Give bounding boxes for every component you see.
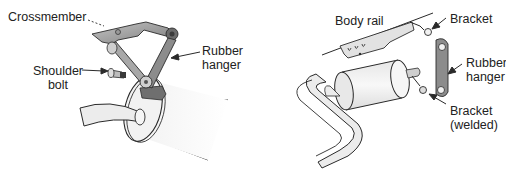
label-rubber-hanger-right-line2: hanger: [466, 70, 506, 84]
shoulder-bolt: [108, 69, 126, 79]
label-shoulder-bolt-line1: Shoulder: [32, 64, 84, 78]
exhaust-hanger-diagram: Crossmember Shoulder bolt Rubber hanger …: [0, 0, 506, 173]
right-muffler-assembly: [297, 59, 427, 168]
left-muffler-assembly: [80, 73, 228, 160]
label-rubber-hanger-left-line2: hanger: [202, 58, 243, 72]
label-rubber-hanger-right: Rubber hanger: [466, 56, 506, 84]
left-crossmember-bracket: [88, 20, 178, 88]
label-bracket-welded-line1: Bracket: [450, 104, 498, 118]
right-rubber-hanger: [436, 39, 448, 97]
label-crossmember: Crossmember: [8, 10, 87, 24]
label-rubber-hanger-right-line1: Rubber: [466, 56, 506, 70]
left-leader-arrows: [82, 52, 200, 74]
label-shoulder-bolt: Shoulder bolt: [32, 64, 84, 92]
label-body-rail: Body rail: [335, 14, 384, 28]
label-rubber-hanger-left: Rubber hanger: [202, 44, 243, 72]
label-bracket: Bracket: [450, 12, 492, 26]
label-bracket-welded-line2: (welded): [450, 118, 498, 132]
label-rubber-hanger-left-line1: Rubber: [202, 44, 243, 58]
label-bracket-welded: Bracket (welded): [450, 104, 498, 132]
label-shoulder-bolt-line2: bolt: [32, 78, 84, 92]
